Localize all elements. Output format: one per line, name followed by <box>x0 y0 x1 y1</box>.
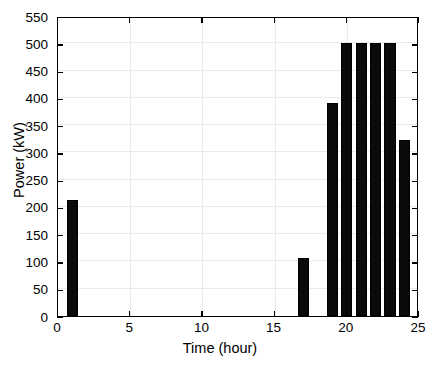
x-axis-tick <box>57 311 58 317</box>
y-axis-tick <box>57 235 63 236</box>
y-axis-tick-right <box>412 262 418 263</box>
x-axis-tick <box>129 311 130 317</box>
y-axis-tick <box>57 290 63 291</box>
x-axis-tick-label: 20 <box>338 321 353 335</box>
bar <box>384 43 395 316</box>
y-axis-title: Power (kW) <box>11 80 27 240</box>
y-axis-tick <box>57 99 63 100</box>
y-axis-tick-label: 50 <box>33 283 48 297</box>
x-axis-tick <box>274 311 275 317</box>
y-axis-tick-label: 250 <box>25 174 48 188</box>
bar <box>67 200 78 316</box>
x-axis-tick-top <box>129 17 130 23</box>
x-axis-tick-top <box>201 17 202 23</box>
bar <box>399 140 410 316</box>
x-axis-tick-top <box>57 17 58 23</box>
x-axis-tick-label: 25 <box>410 321 425 335</box>
x-axis-tick-label: 0 <box>53 321 61 335</box>
bar <box>327 103 338 316</box>
x-axis-tick-top <box>274 17 275 23</box>
y-axis-tick-label: 200 <box>25 201 48 215</box>
y-axis-tick <box>57 44 63 45</box>
bar <box>356 43 367 316</box>
y-axis-tick <box>57 153 63 154</box>
x-axis-tick <box>418 311 419 317</box>
x-axis-tick-top <box>346 17 347 23</box>
y-axis-tick-label: 300 <box>25 147 48 161</box>
y-axis-tick <box>57 72 63 73</box>
x-axis-tick <box>201 311 202 317</box>
y-axis-tick-label: 150 <box>25 229 48 243</box>
y-axis-tick-right <box>412 99 418 100</box>
x-axis-title: Time (hour) <box>0 340 440 356</box>
y-axis-tick-right <box>412 181 418 182</box>
y-axis-tick-label: 550 <box>25 11 48 25</box>
y-axis-tick-label: 350 <box>25 120 48 134</box>
y-axis-tick-right <box>412 317 418 318</box>
y-axis-tick-right <box>412 235 418 236</box>
y-axis-tick <box>57 317 63 318</box>
y-axis-tick-right <box>412 44 418 45</box>
y-axis-tick-right <box>412 126 418 127</box>
x-axis-tick <box>346 311 347 317</box>
bar <box>298 258 309 316</box>
x-axis-tick-top <box>418 17 419 23</box>
y-axis-tick-right <box>412 72 418 73</box>
y-axis-tick-label: 100 <box>25 256 48 270</box>
y-axis-tick <box>57 181 63 182</box>
y-axis-tick-right <box>412 208 418 209</box>
y-axis-tick <box>57 262 63 263</box>
y-axis-tick-right <box>412 290 418 291</box>
y-axis-tick-label: 400 <box>25 92 48 106</box>
bar-series <box>58 18 417 316</box>
y-axis-tick <box>57 208 63 209</box>
x-axis-tick-label: 10 <box>194 321 209 335</box>
y-axis-tick-label: 500 <box>25 38 48 52</box>
bar <box>341 43 352 316</box>
y-axis-tick-label: 450 <box>25 65 48 79</box>
plot-area <box>57 17 418 317</box>
x-axis-tick-label: 5 <box>125 321 133 335</box>
y-axis-tick-label: 0 <box>40 311 48 325</box>
y-axis-tick-right <box>412 153 418 154</box>
x-axis-tick-label: 15 <box>266 321 281 335</box>
figure: 0501001502002503003504004505005500510152… <box>0 0 440 365</box>
y-axis-tick <box>57 126 63 127</box>
bar <box>370 43 381 316</box>
